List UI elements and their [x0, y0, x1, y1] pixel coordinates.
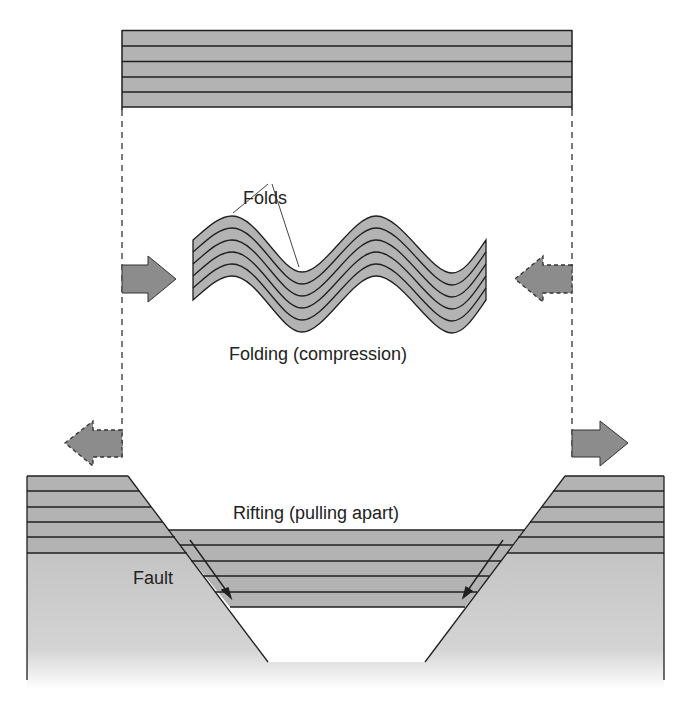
rifting-caption: Rifting (pulling apart) — [233, 503, 399, 524]
compression-arrow-right — [515, 256, 572, 302]
folded-strata — [193, 184, 486, 333]
original-strata-block — [122, 30, 572, 110]
fault-label: Fault — [133, 568, 173, 589]
folding-caption: Folding (compression) — [229, 344, 407, 365]
compression-arrow-left — [122, 256, 176, 302]
extension-arrow-right — [572, 421, 628, 466]
extension-arrow-left — [65, 421, 122, 466]
folds-label: Folds — [243, 188, 287, 209]
